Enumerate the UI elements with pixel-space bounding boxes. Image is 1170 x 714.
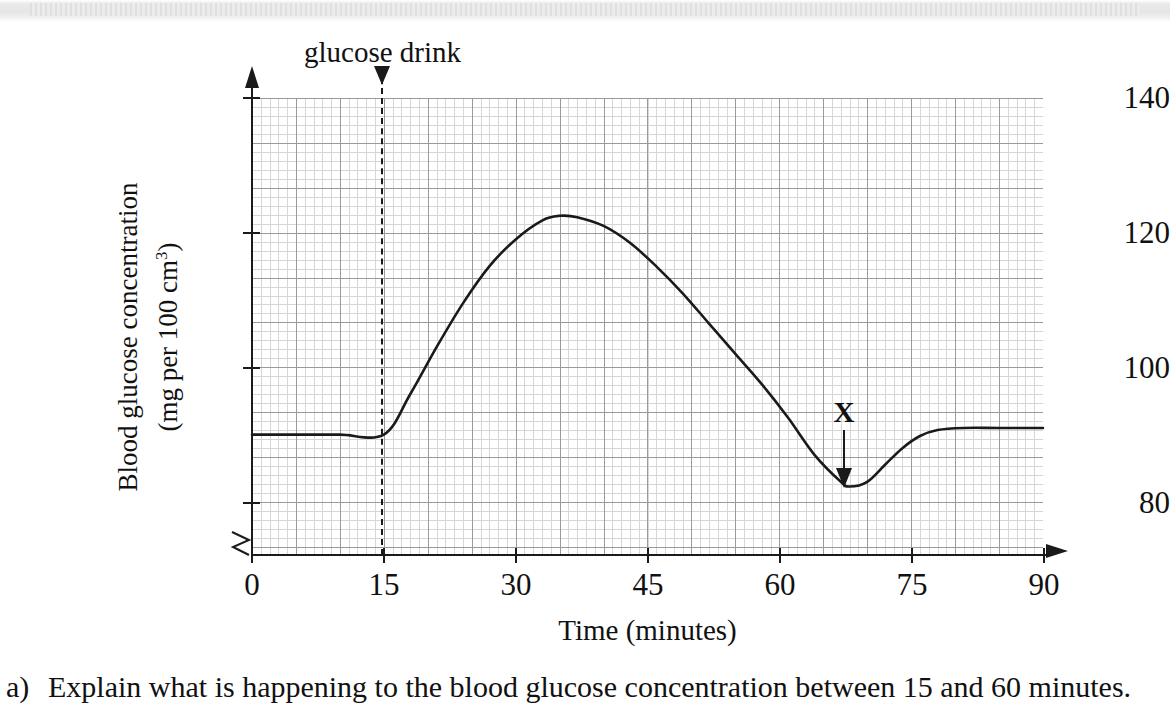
- y-axis-line: [251, 86, 253, 556]
- x-marker-arrow-icon: [836, 468, 852, 488]
- x-tick-label-30: 30: [481, 569, 551, 600]
- x-marker-label: X: [822, 396, 866, 429]
- x-tick-60: [779, 548, 781, 563]
- y-axis-title-superscript: 3: [152, 251, 171, 260]
- y-tick-140: [243, 97, 260, 99]
- x-tick-90: [1043, 548, 1045, 563]
- x-marker-arrow-shaft: [843, 430, 845, 472]
- y-tick-label-140: 140: [935, 82, 1170, 113]
- x-tick-label-15: 15: [349, 569, 419, 600]
- glucose-drink-annotation-label: glucose drink: [250, 36, 515, 69]
- plot-grid-area: [252, 98, 1043, 555]
- x-tick-45: [647, 548, 649, 563]
- y-tick-label-100: 100: [935, 352, 1170, 383]
- glucose-response-figure: 140 120 100 80 0 15 30 45 60 75 90 Blood…: [0, 0, 1170, 660]
- question-text: a)Explain what is happening to the blood…: [6, 668, 1166, 706]
- question-label: a): [6, 668, 48, 706]
- y-axis-title-line2-post: ): [153, 242, 183, 251]
- x-tick-75: [911, 548, 913, 563]
- y-axis-title-line2-pre: (mg per 100 cm: [153, 260, 183, 432]
- y-axis-arrow-icon: [245, 66, 259, 88]
- x-tick-0: [251, 548, 253, 563]
- y-tick-120: [243, 232, 260, 234]
- x-tick-label-0: 0: [217, 569, 287, 600]
- glucose-drink-dashed-line: [381, 68, 383, 555]
- x-axis-line: [252, 554, 1052, 556]
- y-tick-100: [243, 367, 260, 369]
- x-tick-15: [383, 548, 385, 563]
- y-tick-label-80: 80: [935, 487, 1170, 518]
- y-axis-title: Blood glucose concentration (mg per 100 …: [111, 127, 185, 547]
- x-axis-arrow-icon: [1046, 544, 1068, 558]
- y-tick-label-120: 120: [935, 217, 1170, 248]
- x-axis-title: Time (minutes): [252, 614, 1043, 647]
- x-tick-label-45: 45: [613, 569, 683, 600]
- y-axis-title-line1: Blood glucose concentration: [113, 183, 143, 492]
- question-body: Explain what is happening to the blood g…: [48, 670, 1131, 703]
- y-tick-80: [243, 502, 260, 504]
- x-tick-30: [515, 548, 517, 563]
- x-tick-label-60: 60: [745, 569, 815, 600]
- x-tick-label-75: 75: [877, 569, 947, 600]
- x-tick-label-90: 90: [1009, 569, 1079, 600]
